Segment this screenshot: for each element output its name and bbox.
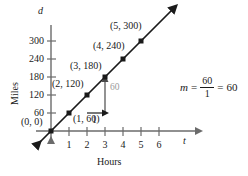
- x-tick-label-4: 4: [116, 140, 130, 150]
- x-axis-variable-label: t: [183, 136, 186, 146]
- slope-formula-numerator: 60: [200, 76, 214, 87]
- point-label-0-0: (0, 0): [21, 117, 43, 127]
- slope-formula-variable: m: [180, 82, 188, 93]
- rise-annotation-label: 60: [110, 83, 120, 93]
- x-axis-title: Hours: [97, 157, 121, 167]
- slope-formula-equals: =: [191, 82, 197, 93]
- y-tick-label-120: 120: [18, 90, 44, 100]
- x-tick-label-2: 2: [80, 140, 94, 150]
- slope-formula: m = 60 1 = 60: [180, 76, 237, 99]
- slope-formula-denominator: 1: [203, 88, 212, 99]
- y-axis-variable-label: d: [38, 6, 43, 16]
- x-tick-label-1: 1: [62, 140, 76, 150]
- data-point-2-120: [85, 93, 90, 98]
- slope-formula-fraction: 60 1: [200, 76, 214, 99]
- data-point-3-180: [103, 75, 108, 80]
- run-annotation-label: 1: [92, 116, 97, 126]
- y-tick-label-180: 180: [18, 72, 44, 82]
- data-point-1-60: [67, 111, 72, 116]
- y-tick-label-300: 300: [18, 36, 44, 46]
- slope-formula-equals-2: =: [217, 82, 223, 93]
- data-point-0-0: [49, 129, 54, 134]
- slope-formula-result: 60: [226, 82, 237, 93]
- x-tick-label-5: 5: [134, 140, 148, 150]
- point-label-3-180: (3, 180): [70, 61, 102, 71]
- x-tick-label-6: 6: [152, 140, 166, 150]
- point-label-5-300: (5, 300): [110, 21, 142, 31]
- data-point-4-240: [121, 57, 126, 62]
- point-label-2-120: (2, 120): [52, 79, 84, 89]
- y-tick-label-240: 240: [18, 54, 44, 64]
- x-tick-label-3: 3: [98, 140, 112, 150]
- data-point-5-300: [139, 39, 144, 44]
- point-label-4-240: (4, 240): [93, 41, 125, 51]
- linear-graph-figure: d t Miles Hours 300 240 180 120 60 1 2 3…: [0, 0, 248, 176]
